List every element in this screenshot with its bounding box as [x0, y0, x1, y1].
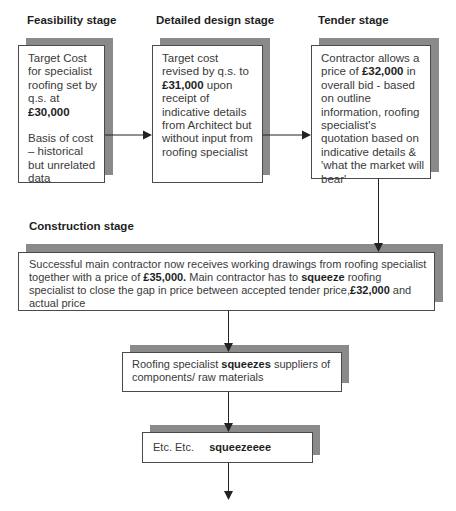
arrowhead-down-icon	[224, 423, 233, 432]
arrowhead-down-icon	[224, 491, 233, 500]
connector-arrows	[0, 0, 456, 511]
arrowhead-down-icon	[224, 343, 233, 352]
arrowhead-right-icon	[302, 131, 311, 140]
arrowhead-down-icon	[374, 243, 383, 252]
arrowhead-right-icon	[143, 131, 152, 140]
